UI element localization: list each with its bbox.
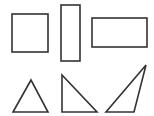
tall-rectangle-shape <box>61 5 80 61</box>
wide-rectangle-shape <box>92 18 147 47</box>
obtuse-triangle-shape <box>106 65 146 112</box>
equilateral-triangle-shape <box>13 80 48 112</box>
square-shape <box>12 14 48 52</box>
shapes-diagram <box>0 0 154 116</box>
right-triangle-shape <box>62 75 97 112</box>
